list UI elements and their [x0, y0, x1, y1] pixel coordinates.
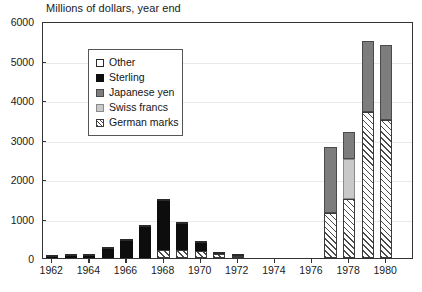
x-axis-tick [88, 259, 89, 263]
legend-item-label: Sterling [109, 72, 145, 83]
x-axis: 1962196419661968197019721974197619781980 [0, 262, 422, 282]
chart-container: Millions of dollars, year end 0100020003… [0, 0, 422, 292]
y-axis-tick-label: 2000 [11, 174, 34, 186]
swatch-sterling-icon [96, 74, 104, 82]
legend-item-swiss-francs[interactable]: Swiss francs [96, 100, 176, 115]
swatch-japanese-yen-icon [96, 89, 104, 97]
legend-item-other[interactable]: Other [96, 55, 176, 70]
bar-segment-german-marks [195, 251, 207, 258]
x-axis-tick-label: 1966 [114, 264, 137, 276]
x-axis-tick-label: 1964 [77, 264, 100, 276]
legend-item-label: German marks [109, 117, 178, 128]
bar-segment-german-marks [176, 250, 188, 258]
x-axis-tick-label: 1978 [336, 264, 359, 276]
bar-1964 [83, 255, 95, 258]
bar-segment-sterling [157, 201, 169, 250]
bar-segment-sterling [120, 241, 132, 258]
bar-segment-other [102, 247, 114, 249]
bar-segment-other [176, 222, 188, 224]
bar-segment-other [46, 255, 58, 257]
bar-segment-german-marks [362, 112, 374, 258]
gridline [43, 221, 412, 222]
bar-1966 [120, 240, 132, 258]
bar-1971 [213, 253, 225, 258]
bar-segment-sterling [102, 249, 114, 258]
legend-item-sterling[interactable]: Sterling [96, 70, 176, 85]
y-axis-tick [42, 141, 46, 142]
y-axis-tick [42, 101, 46, 102]
bar-1965 [102, 248, 114, 258]
chart-title: Millions of dollars, year end [46, 2, 181, 14]
y-axis-tick-label: 5000 [11, 56, 34, 68]
x-axis-tick [348, 259, 349, 263]
legend-item-label: Other [109, 57, 135, 68]
y-axis-tick-label: 1000 [11, 214, 34, 226]
x-axis-tick-label: 1980 [373, 264, 396, 276]
bar-segment-other [157, 199, 169, 201]
x-axis-tick-label: 1976 [299, 264, 322, 276]
bar-segment-other [139, 225, 151, 227]
bar-segment-other [195, 241, 207, 243]
x-axis-tick [237, 259, 238, 263]
swatch-other-icon [96, 59, 104, 67]
legend-item-german-marks[interactable]: German marks [96, 115, 176, 130]
plot-area: OtherSterlingJapanese yenSwiss francsGer… [42, 22, 413, 259]
x-axis-tick [51, 259, 52, 263]
x-axis-tick [385, 259, 386, 263]
y-axis-tick [42, 180, 46, 181]
bar-segment-german-marks [157, 250, 169, 258]
x-axis-tick [163, 259, 164, 263]
bar-segment-german-marks [232, 256, 244, 258]
bar-segment-german-marks [213, 254, 225, 258]
bar-segment-japanese-yen [380, 45, 392, 120]
x-axis-tick [274, 259, 275, 263]
x-axis-tick-label: 1968 [151, 264, 174, 276]
legend-item-label: Swiss francs [109, 102, 168, 113]
bar-segment-german-marks [324, 213, 336, 258]
bar-1963 [65, 256, 77, 258]
bar-segment-other [83, 254, 95, 256]
x-axis-tick [125, 259, 126, 263]
bar-segment-german-marks [343, 199, 355, 258]
bar-segment-japanese-yen [362, 41, 374, 112]
bar-segment-sterling [176, 224, 188, 250]
x-axis-tick-label: 1970 [188, 264, 211, 276]
y-axis: 0100020003000400050006000 [0, 0, 42, 292]
swatch-german-marks-icon [96, 119, 104, 127]
bar-segment-other [65, 254, 77, 256]
legend-item-label: Japanese yen [109, 87, 174, 98]
bar-segment-sterling [195, 243, 207, 251]
bar-1969 [176, 224, 188, 258]
bar-segment-other [232, 254, 244, 256]
bar-1977 [324, 147, 336, 258]
x-axis-tick-label: 1974 [262, 264, 285, 276]
bar-segment-japanese-yen [343, 132, 355, 160]
y-axis-tick [42, 62, 46, 63]
gridline [43, 181, 412, 182]
bar-segment-german-marks [380, 120, 392, 258]
y-axis-tick-label: 6000 [11, 16, 34, 28]
x-axis-tick-label: 1972 [225, 264, 248, 276]
y-axis-tick [42, 220, 46, 221]
bar-1967 [139, 226, 151, 258]
swatch-swiss-francs-icon [96, 104, 104, 112]
legend-item-japanese-yen[interactable]: Japanese yen [96, 85, 176, 100]
bar-1972 [232, 255, 244, 258]
x-axis-tick-label: 1962 [40, 264, 63, 276]
bar-segment-sterling [83, 256, 95, 258]
bar-1978 [343, 132, 355, 258]
bar-1980 [380, 45, 392, 258]
gridline [43, 142, 412, 143]
y-axis-tick-label: 4000 [11, 95, 34, 107]
bar-segment-swiss-francs [343, 159, 355, 199]
x-axis-tick [311, 259, 312, 263]
bar-1979 [362, 41, 374, 258]
bar-segment-other [120, 239, 132, 241]
chart-legend: OtherSterlingJapanese yenSwiss francsGer… [88, 49, 183, 136]
y-axis-tick-label: 3000 [11, 135, 34, 147]
x-axis-tick [200, 259, 201, 263]
bar-1970 [195, 243, 207, 258]
bar-segment-sterling [139, 227, 151, 258]
bar-1968 [157, 200, 169, 258]
bar-segment-other [213, 252, 225, 254]
